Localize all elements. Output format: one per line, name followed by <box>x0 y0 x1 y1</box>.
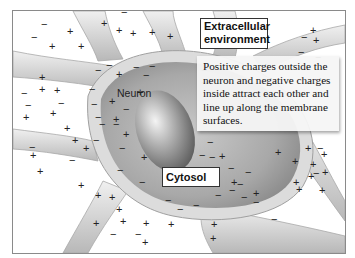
svg-text:+: + <box>219 150 225 162</box>
svg-text:+: + <box>210 232 216 244</box>
svg-text:−: − <box>69 154 75 166</box>
svg-text:+: + <box>109 191 115 203</box>
svg-text:−: − <box>117 164 123 176</box>
svg-text:+: + <box>168 218 174 230</box>
svg-text:+: + <box>231 176 237 188</box>
svg-text:+: + <box>109 95 115 107</box>
svg-text:+: + <box>113 113 119 125</box>
svg-text:+: + <box>93 217 99 229</box>
svg-text:−: − <box>93 134 99 146</box>
svg-text:+: + <box>141 151 147 163</box>
svg-text:−: − <box>139 176 145 188</box>
svg-text:−: − <box>165 194 171 206</box>
svg-text:−: − <box>89 83 95 95</box>
svg-text:+: + <box>322 166 328 178</box>
svg-text:+: + <box>149 26 155 38</box>
svg-text:−: − <box>228 162 234 174</box>
svg-text:+: + <box>292 155 298 167</box>
svg-text:+: + <box>101 17 107 29</box>
svg-text:−: − <box>143 69 149 81</box>
svg-text:−: − <box>317 142 323 154</box>
svg-text:−: − <box>133 61 139 73</box>
svg-text:+: + <box>78 179 84 191</box>
svg-text:+: + <box>39 71 45 83</box>
svg-text:+: + <box>253 187 259 199</box>
svg-text:−: − <box>123 103 129 115</box>
svg-text:−: − <box>313 167 319 179</box>
svg-text:−: − <box>199 149 205 161</box>
svg-text:−: − <box>95 64 101 76</box>
svg-text:+: + <box>23 111 29 123</box>
svg-text:−: − <box>271 213 277 225</box>
svg-text:+: + <box>39 83 45 95</box>
svg-text:+: + <box>78 40 84 52</box>
svg-text:−: − <box>119 142 125 154</box>
svg-text:−: − <box>99 118 105 130</box>
extracellular-environment-label: Extracellular environment <box>200 18 268 49</box>
svg-text:+: + <box>123 128 129 140</box>
svg-text:−: − <box>209 151 215 163</box>
svg-text:+: + <box>54 84 60 96</box>
svg-text:+: + <box>319 184 325 196</box>
svg-text:−: − <box>31 31 37 43</box>
svg-text:+: + <box>116 68 122 80</box>
svg-text:+: + <box>50 107 56 119</box>
svg-text:+: + <box>37 165 43 177</box>
svg-text:−: − <box>193 199 199 211</box>
neuron-illustration: +++ +++ +++ +++ +++ +++ +++ +++ +++ +++ … <box>13 11 345 253</box>
svg-text:−: − <box>25 99 31 111</box>
svg-text:+: + <box>142 236 148 248</box>
svg-text:+: + <box>116 24 122 36</box>
svg-text:−: − <box>207 136 213 148</box>
svg-text:+: + <box>116 203 122 215</box>
svg-text:−: − <box>91 98 97 110</box>
svg-text:−: − <box>121 11 127 18</box>
svg-text:+: + <box>305 142 311 154</box>
svg-text:+: + <box>130 27 136 39</box>
svg-text:−: − <box>106 59 112 71</box>
svg-text:+: + <box>167 30 173 42</box>
svg-text:−: − <box>29 141 35 153</box>
svg-text:+: + <box>83 142 89 154</box>
svg-text:−: − <box>245 166 251 178</box>
svg-text:+: + <box>49 40 55 52</box>
extracellular-label-line2: environment <box>204 33 264 46</box>
svg-text:−: − <box>21 87 27 99</box>
svg-text:+: + <box>72 134 78 146</box>
svg-text:+: + <box>211 218 217 230</box>
diagram-frame: +++ +++ +++ +++ +++ +++ +++ +++ +++ +++ … <box>12 10 346 254</box>
svg-text:−: − <box>215 189 221 201</box>
neuron-label: Neuron <box>117 87 151 99</box>
svg-text:−: − <box>177 203 183 215</box>
svg-text:+: + <box>313 34 319 46</box>
svg-text:+: + <box>143 217 149 229</box>
explanation-callout: Positive charges outside the neuron and … <box>197 56 339 131</box>
svg-text:−: − <box>149 60 155 72</box>
cytosol-label: Cytosol <box>162 167 220 187</box>
extracellular-label-line1: Extracellular <box>204 20 264 33</box>
svg-text:−: − <box>301 31 307 43</box>
svg-text:−: − <box>110 228 116 240</box>
svg-text:−: − <box>58 97 64 109</box>
svg-text:+: + <box>275 146 281 158</box>
svg-text:+: + <box>95 189 101 201</box>
svg-text:+: + <box>67 25 73 37</box>
svg-text:−: − <box>41 18 47 30</box>
svg-text:+: + <box>120 215 126 227</box>
svg-text:+: + <box>64 122 70 134</box>
svg-text:−: − <box>135 228 141 240</box>
svg-text:−: − <box>241 191 247 203</box>
svg-text:+: + <box>296 183 302 195</box>
svg-text:−: − <box>237 178 243 190</box>
